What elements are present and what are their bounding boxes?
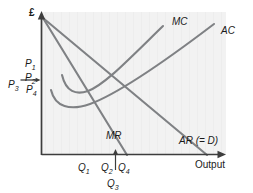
quantity-label-q2: Q2 [101,158,113,174]
quantity-label-q3-base: Q [107,178,115,189]
price-label-p3-sub: 3 [15,85,19,92]
quantity-label-q1-sub: 1 [86,168,90,175]
ar-curve-label: AR (= D) [179,136,218,146]
price-label-p4-sub: 4 [33,90,37,97]
y-axis-label: £ [29,8,35,18]
price-label-p3: P3 [8,75,19,91]
mc-curve-label: MC [172,17,188,27]
price-label-p4: P4 [26,80,37,96]
x-axis-label: Output [195,160,225,170]
quantity-label-q3: Q3 [107,174,119,190]
quantity-label-q1-base: Q [78,162,86,173]
quantity-label-q3-sub: 3 [115,184,119,191]
mr-curve-label: MR [106,131,122,141]
ac-curve-label: AC [221,26,235,36]
economics-diagram: £ Output MC AC MR AR (= D) P1 P2 P3 P4 Q… [0,0,253,193]
quantity-label-q4: Q4 [118,158,130,174]
price-label-p3-base: P [8,79,15,90]
quantity-label-q4-sub: 4 [126,168,130,175]
quantity-label-q2-base: Q [101,162,109,173]
quantity-label-q4-base: Q [118,162,126,173]
quantity-label-q1: Q1 [78,158,90,174]
price-label-p4-base: P [26,84,33,95]
